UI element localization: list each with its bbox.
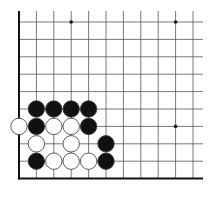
go-board[interactable] (0, 0, 217, 202)
white-stone[interactable] (28, 136, 44, 152)
star-point (69, 20, 73, 24)
black-stone[interactable] (63, 101, 79, 117)
white-stone[interactable] (63, 118, 79, 134)
black-stone[interactable] (80, 101, 96, 117)
white-stone[interactable] (63, 153, 79, 169)
white-stone[interactable] (80, 153, 96, 169)
black-stone[interactable] (98, 153, 114, 169)
black-stone[interactable] (28, 153, 44, 169)
black-stone[interactable] (28, 101, 44, 117)
black-stone[interactable] (98, 136, 114, 152)
star-point (174, 125, 178, 129)
white-stone[interactable] (11, 118, 27, 134)
white-stone[interactable] (63, 136, 79, 152)
black-stone[interactable] (28, 118, 44, 134)
star-point (174, 20, 178, 24)
white-stone[interactable] (46, 118, 62, 134)
black-stone[interactable] (46, 101, 62, 117)
white-stone[interactable] (46, 153, 62, 169)
black-stone[interactable] (80, 118, 96, 134)
